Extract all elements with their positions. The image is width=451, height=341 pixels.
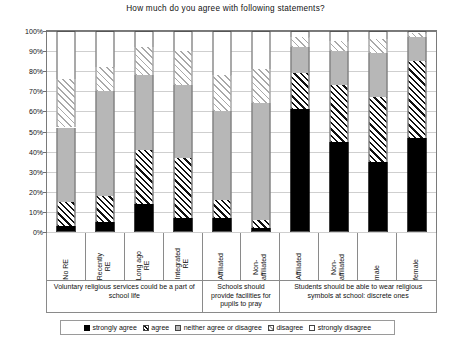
- legend-item[interactable]: neither agree or disagree: [175, 324, 262, 331]
- x-axis-category-label: male: [373, 264, 381, 280]
- legend-item[interactable]: agree: [143, 324, 169, 331]
- bar-segment: [57, 31, 76, 79]
- bar-segment: [213, 31, 232, 75]
- x-axis-group-label: Students should be able to wear religiou…: [283, 283, 433, 300]
- x-axis-category-label: Integrated RE: [174, 247, 191, 280]
- bar-slot: [86, 31, 125, 232]
- x-axis-category-label: Long ago RE: [135, 250, 152, 280]
- bar-segment: [174, 85, 193, 157]
- legend-swatch-icon: [309, 325, 315, 331]
- category-cell: female: [397, 233, 436, 280]
- bar-slot: [125, 31, 164, 232]
- bar-segment: [96, 196, 115, 222]
- y-axis-tick-label: 10%: [29, 208, 43, 215]
- bar-slot: [242, 31, 281, 232]
- stacked-bar[interactable]: [135, 31, 154, 232]
- stacked-bar[interactable]: [329, 31, 348, 232]
- category-cell: Recently RE: [86, 233, 125, 280]
- x-axis-group-label: Voluntary religious services could be a …: [50, 283, 199, 300]
- y-axis-tick-label: 70%: [29, 88, 43, 95]
- legend-item[interactable]: strongly agree: [84, 324, 137, 331]
- category-label-band: No RERecently RELong ago REIntegrated RE…: [46, 233, 437, 281]
- category-cell: Long ago RE: [125, 233, 164, 280]
- stacked-bar[interactable]: [174, 31, 193, 232]
- y-axis-tick-label: 100%: [25, 28, 43, 35]
- category-cell: Non- affiliated: [242, 233, 281, 280]
- bar-segment: [407, 33, 426, 37]
- legend-item[interactable]: disagree: [268, 324, 303, 331]
- bar-segment: [57, 128, 76, 202]
- bar-segment: [135, 150, 154, 204]
- bar-segment: [329, 85, 348, 141]
- stacked-bar[interactable]: [251, 31, 270, 232]
- bar-segment: [368, 97, 387, 161]
- bar-segment: [213, 200, 232, 218]
- chart-container: How much do you agree with following sta…: [0, 0, 451, 341]
- x-axis-category-label: female: [412, 258, 420, 280]
- bar-segment: [407, 31, 426, 33]
- bar-segment: [174, 158, 193, 218]
- bar-segment: [290, 37, 309, 47]
- y-axis-tick-label: 50%: [29, 128, 43, 135]
- legend-label: disagree: [276, 324, 303, 331]
- legend-swatch-icon: [268, 325, 274, 331]
- category-cell: male: [358, 233, 397, 280]
- group-cell: Students should be able to wear religiou…: [280, 281, 436, 312]
- bar-segment: [407, 138, 426, 232]
- chart-legend: strongly agreeagreeneither agree or disa…: [60, 320, 395, 335]
- category-cell: Integrated RE: [164, 233, 203, 280]
- category-cell: Affiliated: [280, 233, 319, 280]
- bar-segment: [407, 61, 426, 137]
- bar-segment: [96, 67, 115, 91]
- bar-segment: [135, 75, 154, 149]
- x-axis-category-label: Recently RE: [96, 252, 113, 280]
- bar-segment: [135, 31, 154, 47]
- stacked-bar[interactable]: [407, 31, 426, 232]
- bar-slot: [203, 31, 242, 232]
- bar-segment: [57, 202, 76, 226]
- bar-segment: [96, 31, 115, 67]
- stacked-bar[interactable]: [368, 31, 387, 232]
- stacked-bar[interactable]: [213, 31, 232, 232]
- y-axis-tick-label: 30%: [29, 168, 43, 175]
- bar-segment: [368, 162, 387, 232]
- bar-segment: [57, 79, 76, 127]
- legend-item[interactable]: strongly disagree: [309, 324, 371, 331]
- category-cell: No RE: [47, 233, 86, 280]
- x-axis-category-label: Non- affiliated: [330, 253, 347, 280]
- group-cell: Schools should provide facilities for pu…: [203, 281, 281, 312]
- legend-label: strongly disagree: [318, 324, 371, 331]
- bar-segment: [213, 75, 232, 111]
- bar-series-group: [47, 31, 436, 232]
- bar-segment: [135, 204, 154, 232]
- bar-segment: [329, 31, 348, 41]
- bar-segment: [251, 31, 270, 69]
- bar-slot: [319, 31, 358, 232]
- bar-segment: [368, 53, 387, 97]
- legend-label: neither agree or disagree: [184, 324, 262, 331]
- y-axis-tick-label: 40%: [29, 148, 43, 155]
- legend-swatch-icon: [143, 325, 149, 331]
- bar-segment: [290, 109, 309, 232]
- bar-segment: [290, 73, 309, 109]
- bar-segment: [251, 228, 270, 232]
- bar-segment: [290, 47, 309, 73]
- bar-segment: [135, 47, 154, 75]
- stacked-bar[interactable]: [57, 31, 76, 232]
- bar-segment: [251, 69, 270, 103]
- legend-swatch-icon: [84, 325, 90, 331]
- stacked-bar[interactable]: [290, 31, 309, 232]
- bar-segment: [329, 142, 348, 232]
- x-axis-category-label: Affiliated: [295, 252, 303, 280]
- bar-slot: [164, 31, 203, 232]
- bar-segment: [407, 37, 426, 61]
- group-label-band: Voluntary religious services could be a …: [46, 281, 437, 313]
- chart-title: How much do you agree with following sta…: [0, 4, 451, 13]
- bar-slot: [280, 31, 319, 232]
- stacked-bar[interactable]: [96, 31, 115, 232]
- legend-label: strongly agree: [92, 324, 136, 331]
- bar-segment: [174, 51, 193, 85]
- bar-segment: [368, 31, 387, 39]
- x-axis-category-label: No RE: [62, 258, 70, 280]
- bar-segment: [57, 226, 76, 232]
